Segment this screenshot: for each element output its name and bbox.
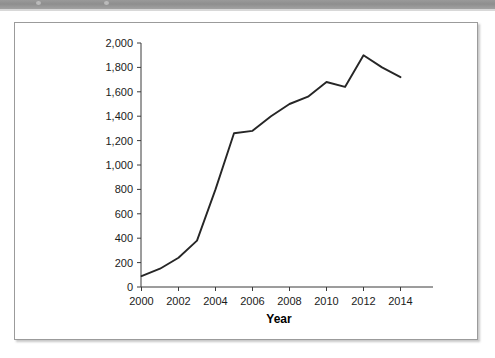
- y-axis-tick-marks: [137, 43, 141, 287]
- x-axis-tick-label: 2010: [314, 295, 338, 307]
- y-axis-tick-label: 1,600: [105, 86, 133, 98]
- x-axis-title: Year: [266, 312, 292, 326]
- y-axis-tick-label: 600: [115, 208, 133, 220]
- x-axis-tick-labels: 20002002200420062008201020122014: [129, 295, 412, 307]
- x-axis-tick-label: 2004: [203, 295, 227, 307]
- y-axis-tick-label: 1,200: [105, 135, 133, 147]
- x-axis-tick-label: 2000: [129, 295, 153, 307]
- header-band-dot: [104, 1, 109, 5]
- data-series-line: [142, 55, 401, 276]
- x-axis-tick-label: 2008: [277, 295, 301, 307]
- x-axis-tick-marks: [142, 287, 401, 291]
- header-band-dot: [36, 1, 41, 5]
- chart-plot-svg: 02004006008001,0001,2001,4001,6001,8002,…: [15, 23, 479, 341]
- line-chart: 02004006008001,0001,2001,4001,6001,8002,…: [15, 23, 479, 341]
- y-axis-tick-label: 2,000: [105, 37, 133, 49]
- y-axis-tick-label: 400: [115, 232, 133, 244]
- y-axis-tick-label: 1,400: [105, 110, 133, 122]
- x-axis-tick-label: 2012: [351, 295, 375, 307]
- y-axis-tick-label: 800: [115, 183, 133, 195]
- y-axis-tick-label: 200: [115, 257, 133, 269]
- header-band-edge: [0, 9, 495, 11]
- figure-frame: 02004006008001,0001,2001,4001,6001,8002,…: [14, 22, 478, 340]
- x-axis-tick-label: 2006: [240, 295, 264, 307]
- x-axis-tick-label: 2002: [166, 295, 190, 307]
- page-header-band: [0, 0, 495, 9]
- y-axis-tick-label: 1,800: [105, 61, 133, 73]
- x-axis-tick-label: 2014: [388, 295, 412, 307]
- y-axis-tick-label: 1,000: [105, 159, 133, 171]
- y-axis-tick-labels: 02004006008001,0001,2001,4001,6001,8002,…: [105, 37, 133, 293]
- y-axis-tick-label: 0: [127, 281, 133, 293]
